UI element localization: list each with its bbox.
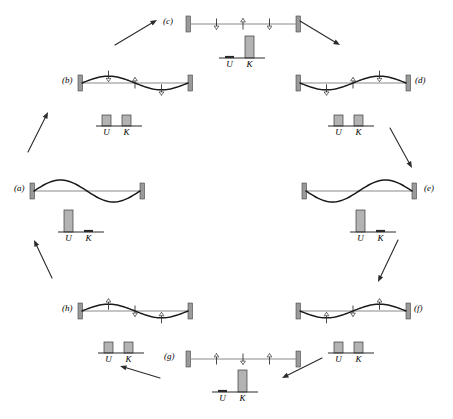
standing-wave-a: [30, 176, 148, 206]
panel-label-b: (b): [62, 76, 73, 85]
panel-label-f: (f): [414, 304, 423, 313]
cycle-arrow-e-to-f: [368, 230, 408, 292]
svg-text:K: K: [354, 127, 362, 137]
svg-text:K: K: [354, 354, 362, 364]
panel-label-e: (e): [424, 184, 434, 193]
svg-text:U: U: [219, 393, 226, 403]
energy-bar-chart-g: UK: [206, 366, 262, 400]
energy-bar-chart-d: UK: [322, 100, 378, 134]
svg-text:K: K: [245, 59, 253, 69]
svg-text:U: U: [335, 354, 342, 364]
cycle-arrow-h-to-a: [24, 230, 62, 288]
cycle-arrow-b-to-c: [105, 10, 167, 55]
standing-wave-e: [302, 176, 420, 206]
svg-text:U: U: [65, 233, 72, 243]
svg-text:U: U: [335, 127, 342, 137]
cycle-arrow-f-to-g: [272, 348, 332, 388]
standing-wave-h: [78, 296, 196, 326]
panel-label-d: (d): [415, 76, 426, 85]
panel-label-h: (h): [62, 304, 73, 313]
standing-wave-b: [78, 68, 196, 98]
cycle-arrow-a-to-b: [18, 102, 58, 162]
svg-text:U: U: [226, 59, 233, 69]
cycle-arrow-g-to-h: [110, 356, 170, 388]
svg-text:U: U: [357, 233, 364, 243]
svg-text:K: K: [84, 233, 92, 243]
figure-canvas: (a)UK(b)UK(c)UK(d)UK(e)UK(f)UK(g)UK(h)UK: [0, 0, 453, 419]
svg-text:K: K: [122, 127, 130, 137]
standing-wave-d: [296, 68, 414, 98]
svg-text:K: K: [238, 393, 246, 403]
energy-bar-chart-c: UK: [213, 32, 269, 66]
standing-wave-f: [296, 296, 414, 326]
cycle-arrow-c-to-d: [290, 11, 350, 55]
svg-text:U: U: [103, 127, 110, 137]
cycle-arrow-d-to-e: [380, 118, 422, 178]
panel-label-a: (a): [14, 184, 25, 193]
energy-bar-chart-b: UK: [90, 100, 146, 134]
